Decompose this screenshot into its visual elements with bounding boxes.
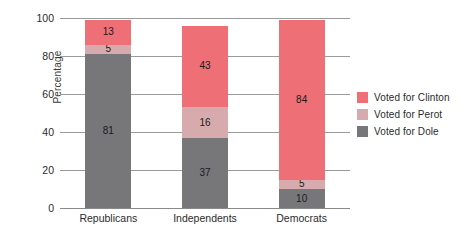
bar-segment-value-label: 37 [199, 168, 210, 178]
bar-segment-value-label: 5 [106, 45, 112, 55]
legend-item-voted-for-perot[interactable]: Voted for Perot [357, 107, 463, 122]
legend-swatch-clinton-icon [357, 92, 368, 103]
y-tick-label: 60 [8, 88, 54, 100]
plot-area: 8151337164310584 [60, 18, 350, 208]
bar-segment-value-label: 10 [296, 194, 307, 204]
x-tick-label-independents: Independents [173, 212, 237, 224]
bar-segment-value-label: 81 [103, 126, 114, 136]
legend-item-voted-for-clinton[interactable]: Voted for Clinton [357, 90, 463, 105]
y-axis-tick-labels: 020406080100 [8, 18, 54, 208]
bar-segment-value-label: 5 [299, 180, 305, 190]
bar-segment-value-label: 13 [103, 27, 114, 37]
stacked-bar-chart: Percentage 020406080100 8151337164310584… [0, 0, 466, 241]
y-tick-label: 40 [8, 126, 54, 138]
bar-segment-republicans-voted-for-perot[interactable]: 5 [85, 45, 131, 55]
bar-segment-democrats-voted-for-clinton[interactable]: 84 [279, 20, 325, 180]
y-tick-label: 100 [8, 12, 54, 24]
x-tick-label-democrats: Democrats [276, 212, 327, 224]
bar-segment-independents-voted-for-dole[interactable]: 37 [182, 138, 228, 208]
bar-segment-democrats-voted-for-perot[interactable]: 5 [279, 180, 325, 190]
y-tick-label: 80 [8, 50, 54, 62]
legend-swatch-dole-icon [357, 126, 368, 137]
bar-segment-value-label: 84 [296, 95, 307, 105]
bar-segment-independents-voted-for-clinton[interactable]: 43 [182, 26, 228, 108]
y-tick-label: 0 [8, 202, 54, 214]
legend-item-label: Voted for Perot [374, 109, 442, 120]
bar-segment-democrats-voted-for-dole[interactable]: 10 [279, 189, 325, 208]
x-tick-label-republicans: Republicans [79, 212, 137, 224]
legend-item-voted-for-dole[interactable]: Voted for Dole [357, 124, 463, 139]
bar-segment-republicans-voted-for-dole[interactable]: 81 [85, 54, 131, 208]
legend-swatch-perot-icon [357, 109, 368, 120]
y-tick-label: 20 [8, 164, 54, 176]
bar-republicans[interactable]: 81513 [85, 18, 131, 208]
bar-segment-value-label: 16 [199, 118, 210, 128]
legend-item-label: Voted for Dole [374, 126, 439, 137]
bar-segment-republicans-voted-for-clinton[interactable]: 13 [85, 20, 131, 45]
legend-item-label: Voted for Clinton [374, 92, 450, 103]
bar-independents[interactable]: 371643 [182, 18, 228, 208]
bar-segment-value-label: 43 [199, 61, 210, 71]
bar-segment-independents-voted-for-perot[interactable]: 16 [182, 107, 228, 137]
chart-legend: Voted for ClintonVoted for PerotVoted fo… [357, 90, 463, 141]
bar-democrats[interactable]: 10584 [279, 18, 325, 208]
gridline-0 [60, 208, 350, 209]
